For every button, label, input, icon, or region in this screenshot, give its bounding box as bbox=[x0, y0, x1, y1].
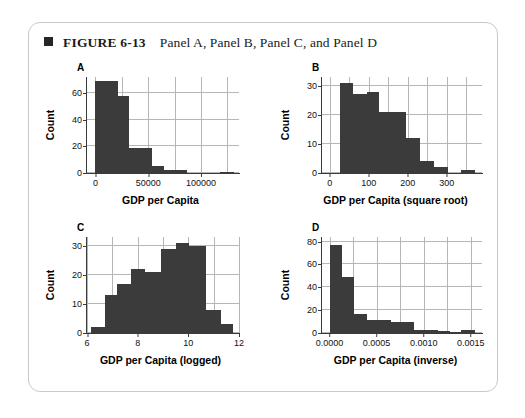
x-axis-tick-label: 100 bbox=[361, 178, 376, 188]
histogram-bar bbox=[91, 327, 105, 333]
y-axis-tick-label: 80 bbox=[307, 237, 317, 247]
histogram-bar bbox=[367, 320, 391, 333]
histogram-bar bbox=[420, 161, 433, 173]
panel-d-x-axis-title: GDP per Capita (inverse) bbox=[264, 354, 499, 366]
y-axis-tick-label: 20 bbox=[307, 305, 317, 315]
y-axis-tick-label: 0 bbox=[77, 328, 82, 338]
square-bullet-icon bbox=[44, 37, 53, 46]
x-axis-tick-label: 0 bbox=[327, 178, 332, 188]
histogram-bar bbox=[164, 170, 187, 173]
histogram-bar bbox=[353, 94, 367, 173]
histogram-bar bbox=[161, 249, 176, 333]
y-axis-tick-label: 20 bbox=[72, 141, 82, 151]
gridline-vertical bbox=[201, 77, 202, 173]
y-axis-tick-label: 20 bbox=[307, 110, 317, 120]
panel-d-y-axis-title: Count bbox=[270, 237, 300, 333]
histogram-bar bbox=[117, 284, 130, 333]
histogram-bar bbox=[105, 295, 117, 333]
histogram-bar bbox=[340, 83, 354, 173]
gridline-vertical bbox=[447, 237, 448, 333]
y-axis-tick-label: 30 bbox=[307, 81, 317, 91]
histogram-bar bbox=[129, 148, 152, 173]
figure-caption: FIGURE 6-13 Panel A, Panel B, Panel C, a… bbox=[44, 35, 377, 51]
histogram-bar bbox=[434, 167, 448, 173]
x-axis-tick-label: 0 bbox=[93, 178, 98, 188]
y-axis-tick-label: 40 bbox=[72, 115, 82, 125]
x-axis-tick-label: 0.0000 bbox=[316, 338, 344, 348]
histogram-bar bbox=[391, 322, 399, 333]
x-axis-tick-label: 200 bbox=[400, 178, 415, 188]
panel-c-letter: C bbox=[77, 222, 84, 233]
histogram-bar bbox=[206, 310, 221, 333]
panel-a-x-axis-title: GDP per Capita bbox=[29, 194, 264, 206]
panel-c-x-axis-line bbox=[86, 333, 240, 334]
y-axis-tick-label: 0 bbox=[312, 168, 317, 178]
x-axis-tick-label: 100000 bbox=[186, 178, 216, 188]
histogram-bar bbox=[414, 330, 438, 333]
panel-c-y-axis-title: Count bbox=[35, 237, 65, 333]
panel-b: B Count 01020300100200300 GDP per Capita… bbox=[264, 61, 499, 226]
histogram-bar bbox=[398, 322, 414, 333]
y-axis-tick-label: 20 bbox=[72, 270, 82, 280]
histogram-bar bbox=[342, 277, 354, 333]
gridline-vertical bbox=[330, 77, 331, 173]
panel-a-letter: A bbox=[77, 62, 84, 73]
y-axis-tick-label: 60 bbox=[72, 88, 82, 98]
histogram-bar bbox=[379, 112, 406, 173]
panel-d-y-axis-line bbox=[321, 237, 322, 333]
histogram-bar bbox=[354, 314, 367, 333]
y-axis-tick-label: 10 bbox=[307, 139, 317, 149]
figure-number-label: FIGURE 6-13 bbox=[63, 35, 146, 51]
histogram-bar bbox=[220, 172, 234, 173]
histogram-bar bbox=[330, 245, 342, 333]
panel-b-y-axis-title: Count bbox=[270, 77, 300, 173]
histogram-bar bbox=[438, 331, 450, 333]
gridline-vertical bbox=[427, 77, 428, 173]
y-axis-tick-label: 0 bbox=[77, 168, 82, 178]
panel-b-x-axis-line bbox=[321, 173, 483, 174]
x-axis-tick-label: 8 bbox=[135, 338, 140, 348]
panel-c: C Count 0102030681012 GDP per Capita (lo… bbox=[29, 221, 264, 386]
y-axis-tick-label: 30 bbox=[72, 241, 82, 251]
x-axis-tick-label: 50000 bbox=[136, 178, 161, 188]
panel-a-x-axis-line bbox=[86, 173, 240, 174]
histogram-bar bbox=[95, 81, 117, 173]
panel-d: D Count 0204060800.00000.00050.00100.001… bbox=[264, 221, 499, 386]
x-axis-tick-label: 0.0010 bbox=[410, 338, 438, 348]
panel-b-x-axis-title: GDP per Capita (square root) bbox=[264, 194, 499, 206]
gridline-vertical bbox=[400, 237, 401, 333]
histogram-bar bbox=[176, 243, 189, 333]
x-axis-tick-label: 0.0015 bbox=[457, 338, 485, 348]
histogram-bar bbox=[152, 166, 164, 173]
panel-c-x-axis-title: GDP per Capita (logged) bbox=[29, 354, 264, 366]
histogram-bar bbox=[189, 246, 206, 333]
figure-caption-text: Panel A, Panel B, Panel C, and Panel D bbox=[160, 35, 377, 51]
panel-a: A Count 0204060050000100000 GDP per Capi… bbox=[29, 61, 264, 226]
gridline-vertical bbox=[227, 77, 228, 173]
x-axis-tick-label: 10 bbox=[183, 338, 193, 348]
gridline-horizontal bbox=[322, 241, 482, 242]
histogram-bar bbox=[221, 324, 234, 333]
y-axis-tick-label: 40 bbox=[307, 282, 317, 292]
panel-d-plot-area: 0204060800.00000.00050.00100.0015 bbox=[322, 237, 482, 333]
histogram-bar bbox=[145, 272, 161, 333]
gridline-vertical bbox=[447, 77, 448, 173]
histogram-bar bbox=[367, 92, 379, 173]
y-axis-tick-label: 0 bbox=[312, 328, 317, 338]
histogram-bar bbox=[450, 332, 461, 333]
gridline-vertical bbox=[87, 237, 88, 333]
panel-b-y-axis-line bbox=[321, 77, 322, 173]
x-axis-tick-label: 12 bbox=[234, 338, 244, 348]
y-axis-tick-label: 60 bbox=[307, 259, 317, 269]
x-axis-tick-label: 300 bbox=[439, 178, 454, 188]
gridline-vertical bbox=[424, 237, 425, 333]
histogram-bar bbox=[131, 269, 146, 333]
histogram-bar bbox=[461, 170, 475, 173]
y-axis-tick-label: 10 bbox=[72, 299, 82, 309]
panel-a-plot-area: 0204060050000100000 bbox=[87, 77, 239, 173]
gridline-vertical bbox=[377, 237, 378, 333]
panel-b-letter: B bbox=[312, 62, 319, 73]
gridline-vertical bbox=[175, 77, 176, 173]
histogram-bar bbox=[461, 330, 475, 333]
panel-a-y-axis-title: Count bbox=[35, 77, 65, 173]
